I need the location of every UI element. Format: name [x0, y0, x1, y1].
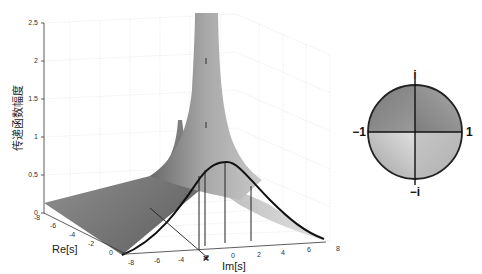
im-tick: 8: [336, 245, 340, 252]
z-tick: 2.5: [28, 19, 38, 26]
z-tick: 2: [34, 57, 38, 64]
im-tick: -4: [178, 256, 184, 263]
surface-left: [44, 120, 200, 255]
circle-label-bottom: −i: [410, 185, 420, 199]
z-tick: 0.5: [28, 171, 38, 178]
im-tick: -2: [203, 254, 209, 261]
re-tick: -4: [69, 231, 75, 238]
re-axis-label: Re[s]: [52, 243, 78, 255]
z-tick: 1: [34, 133, 38, 140]
im-tick: -6: [154, 257, 160, 264]
circle-label-top: i: [413, 68, 416, 82]
chart-canvas: 2.5 2 1.5 1 0.5 0 传递函数幅度 × -8 -6 -4 -2 0…: [0, 0, 482, 274]
im-axis-label: Im[s]: [222, 260, 246, 272]
re-tick: -8: [34, 214, 40, 221]
im-tick: 2: [257, 251, 261, 258]
re-tick: 0: [109, 249, 113, 256]
circle-label-right: 1: [466, 125, 473, 139]
circle-label-left: −1: [352, 125, 366, 139]
re-tick: -2: [88, 240, 94, 247]
z-axis-label: 传递函数幅度: [11, 85, 25, 151]
im-tick: -8: [128, 259, 134, 266]
z-axis: 2.5 2 1.5 1 0.5 0 传递函数幅度: [11, 19, 44, 216]
im-tick: 4: [281, 249, 285, 256]
im-tick: 6: [307, 246, 311, 253]
re-tick: -6: [50, 222, 56, 229]
complex-unit-circle: i −i −1 1: [352, 68, 473, 199]
im-tick: 0: [231, 252, 235, 259]
z-tick: 1.5: [28, 95, 38, 102]
